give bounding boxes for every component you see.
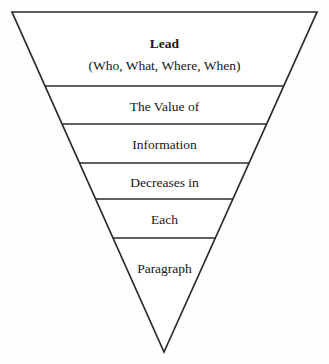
pyramid-outline [12,12,317,352]
pyramid-graphic [0,0,329,364]
inverted-pyramid-diagram: Lead(Who, What, Where, When)The Value of… [0,0,329,364]
